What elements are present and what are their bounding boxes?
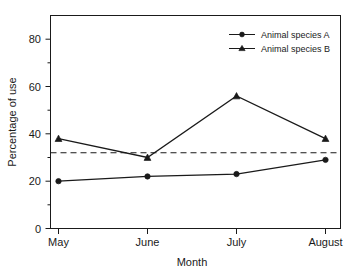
- legend-circle-marker-icon: [240, 32, 245, 37]
- y-tick-label-60: 60: [29, 81, 41, 93]
- legend-label-a: Animal species A: [261, 30, 330, 40]
- x-axis-ticks: [59, 229, 326, 235]
- data-point: [145, 174, 150, 179]
- y-tick-label-0: 0: [35, 223, 41, 235]
- legend-label-b: Animal species B: [261, 44, 330, 54]
- series-markers-animal-species-a: [56, 157, 328, 184]
- data-point: [56, 178, 61, 183]
- x-tick-label-may: May: [48, 236, 69, 248]
- x-axis-title: Month: [177, 256, 208, 268]
- chart-container: 0 20 40 60 80 Percentage of use May June…: [0, 0, 356, 275]
- x-axis-tick-labels: May June July August: [48, 236, 343, 248]
- chart-legend: Animal species A Animal species B: [229, 30, 330, 54]
- x-tick-label-july: July: [227, 236, 247, 248]
- y-tick-label-40: 40: [29, 128, 41, 140]
- x-tick-label-august: August: [308, 236, 342, 248]
- data-point: [55, 135, 62, 141]
- y-axis-title: Percentage of use: [6, 77, 18, 166]
- y-axis-tick-labels: 0 20 40 60 80: [29, 33, 41, 234]
- series-line-animal-species-a: [59, 160, 326, 181]
- line-chart: 0 20 40 60 80 Percentage of use May June…: [0, 0, 356, 275]
- y-tick-label-80: 80: [29, 33, 41, 45]
- data-point: [234, 171, 239, 176]
- y-tick-label-20: 20: [29, 175, 41, 187]
- data-point: [323, 157, 328, 162]
- series-line-animal-species-b: [59, 96, 326, 158]
- data-point: [322, 135, 329, 141]
- y-axis-major-ticks: [46, 39, 51, 228]
- data-point: [233, 93, 240, 99]
- x-tick-label-june: June: [136, 236, 160, 248]
